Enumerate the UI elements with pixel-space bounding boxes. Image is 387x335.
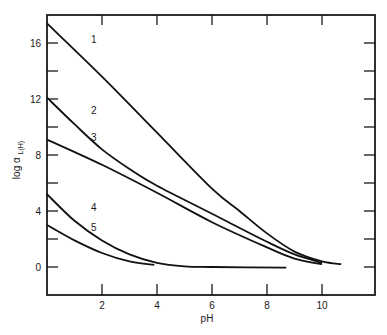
x-axis-label: pH [201,313,214,324]
chart: 2468100481216 12345 pH log α L(H) [0,0,387,335]
x-tick-label: 10 [316,300,328,311]
curve-label-5: 5 [91,222,97,233]
y-axis-label-main: log α [11,157,22,179]
plot-frame [47,15,375,295]
y-axis-label: log α L(H) [11,141,25,179]
y-tick-label: 8 [35,150,41,161]
curve-label-4: 4 [91,202,97,213]
curve-label-3: 3 [91,132,97,143]
curve-label-1: 1 [91,34,97,45]
curve-label-2: 2 [91,105,97,116]
curve-2 [47,98,322,263]
curve-labels: 12345 [91,34,97,233]
y-tick-label: 0 [35,262,41,273]
y-axis-label-sub: L(H) [17,141,25,155]
x-tick-label: 4 [154,300,160,311]
x-tick-label: 8 [264,300,270,311]
curve-3 [47,140,322,265]
curve-4 [47,194,286,268]
y-tick-label: 12 [30,94,42,105]
x-tick-label: 2 [99,300,105,311]
y-tick-label: 4 [35,206,41,217]
x-tick-label: 6 [209,300,215,311]
curve-5 [47,225,154,265]
y-tick-label: 16 [30,38,42,49]
